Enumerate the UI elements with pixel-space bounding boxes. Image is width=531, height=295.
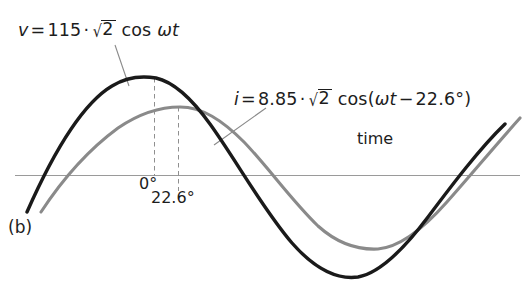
waveform-figure: v=115·√2 cos ωt i=8.85·√2 cos(ωt−22.6°) … [0,0,531,295]
time-axis-label: time [357,131,393,147]
voltage-equation: v=115·√2 cos ωt [18,21,179,40]
current-equation-argument: ωt [375,89,397,109]
current-equation: i=8.85·√2 cos(ωt−22.6°) [234,90,471,109]
tick-label-phase-shift: 22.6° [151,190,195,206]
current-equation-radical: √2 [307,90,331,109]
current-equation-phase: 22.6° [416,89,465,109]
panel-label: (b) [8,219,32,236]
current-equation-amplitude: 8.85 [258,89,298,109]
current-equation-equals: = [239,89,258,109]
voltage-equation-lhs: v [18,20,29,40]
voltage-equation-dot: · [81,20,91,40]
current-equation-dot: · [298,89,308,109]
current-equation-function: cos( [338,89,375,109]
voltage-equation-equals: = [29,20,48,40]
voltage-equation-amplitude: 115 [47,20,81,40]
waveform-plot [0,0,531,295]
voltage-equation-argument: ωt [157,20,179,40]
voltage-equation-radicand: 2 [101,20,115,39]
current-equation-minus: − [397,89,416,109]
voltage-equation-radical: √2 [91,21,115,40]
current-equation-close-paren: ) [464,89,471,109]
current-equation-radicand: 2 [318,89,332,108]
voltage-equation-function: cos [121,20,151,40]
